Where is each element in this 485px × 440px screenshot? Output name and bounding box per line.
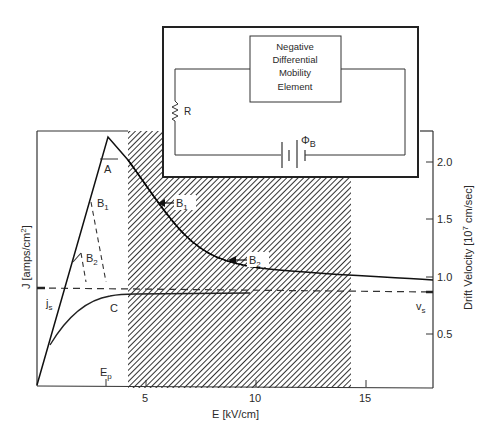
y-right-label: Drift Velocity [107 cm/sec] [461, 185, 474, 310]
x-axis-label: E [kV/cm] [212, 408, 259, 420]
ndm-diagram: A B1 B2 B1 B2 C js vs Ep 5 10 15 E [kV/c… [0, 0, 485, 440]
b1-drop [91, 202, 106, 282]
x-tick-5: 5 [142, 392, 148, 404]
inset-circuit: Negative Differential Mobility Element R… [163, 27, 418, 177]
y-tick-2-0: 2.0 [437, 156, 452, 168]
label-js: js [45, 297, 52, 312]
element-line2: Differential [272, 54, 317, 65]
y-right-ticks [426, 162, 433, 334]
label-c: C [110, 302, 118, 314]
label-b1-left: B1 [97, 197, 109, 212]
x-tick-15: 15 [359, 392, 371, 404]
x-tick-10: 10 [249, 392, 261, 404]
element-line1: Negative [276, 41, 314, 52]
label-vs: vs [416, 300, 426, 315]
element-line3: Mobility [279, 67, 311, 78]
label-a: A [104, 163, 112, 175]
y-tick-0-5: 0.5 [437, 328, 452, 340]
y-tick-1-5: 1.5 [437, 213, 452, 225]
label-b2-left: B2 [86, 252, 98, 267]
y-tick-1-0: 1.0 [437, 271, 452, 283]
element-line4: Element [278, 81, 313, 92]
label-ep: Ep [100, 366, 112, 381]
y-left-label: J [amps/cm2] [19, 225, 32, 289]
resistor-label: R [184, 106, 191, 117]
